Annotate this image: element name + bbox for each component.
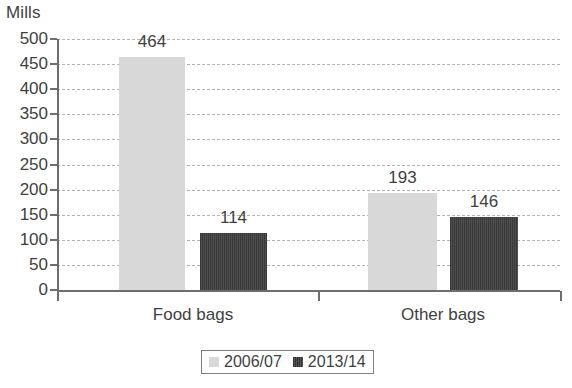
bar-chart: Mills 0501001502002503003504004505004641… — [0, 0, 572, 388]
bar-food-bags-2013-14[interactable] — [200, 233, 267, 290]
x-axis-line — [57, 290, 560, 292]
y-axis-tick — [50, 113, 57, 115]
y-axis-tick-label: 350 — [2, 105, 48, 122]
y-axis-tick — [50, 38, 57, 40]
y-axis-tick-label: 50 — [2, 256, 48, 273]
y-axis-tick-label: 500 — [2, 30, 48, 47]
y-axis-tick-label: 0 — [2, 281, 48, 298]
y-axis-tick — [50, 164, 57, 166]
x-axis-separator-tick — [560, 291, 562, 301]
y-axis-tick — [50, 264, 57, 266]
x-axis-separator-tick — [318, 291, 320, 301]
y-axis-tick-label: 300 — [2, 130, 48, 147]
legend-item-2006-07[interactable]: 2006/07 — [209, 354, 282, 370]
legend-item-label: 2006/07 — [224, 354, 282, 370]
y-axis-tick — [50, 214, 57, 216]
y-axis-tick-label: 100 — [2, 231, 48, 248]
y-axis-tick-label: 150 — [2, 206, 48, 223]
y-axis-line — [57, 39, 59, 300]
y-axis-tick-label: 250 — [2, 156, 48, 173]
y-axis-tick — [50, 289, 57, 291]
legend-item-2013-14[interactable]: 2013/14 — [293, 354, 366, 370]
y-axis-tick — [50, 239, 57, 241]
bar-food-bags-2006-07[interactable] — [119, 57, 185, 290]
bar-other-bags-2006-07[interactable] — [368, 193, 437, 290]
y-axis-tick-label: 450 — [2, 55, 48, 72]
legend-swatch-icon — [209, 357, 219, 367]
y-axis-unit-label: Mills — [6, 3, 41, 23]
y-axis-tick-label: 200 — [2, 181, 48, 198]
bar-other-bags-2013-14[interactable] — [450, 217, 518, 290]
bar-value-label: 114 — [200, 209, 267, 226]
y-axis-tick-label: 400 — [2, 80, 48, 97]
bar-value-label: 146 — [450, 193, 518, 210]
y-axis-tick — [50, 138, 57, 140]
chart-legend: 2006/07 2013/14 — [201, 350, 374, 374]
legend-item-label: 2013/14 — [308, 354, 366, 370]
legend-swatch-icon — [293, 357, 303, 367]
y-axis-tick — [50, 189, 57, 191]
x-axis-category-label: Other bags — [353, 305, 533, 325]
x-axis-origin-tick — [57, 291, 59, 301]
bar-value-label: 464 — [119, 33, 185, 50]
y-axis-tick — [50, 88, 57, 90]
x-axis-category-label: Food bags — [103, 305, 283, 325]
y-axis-tick — [50, 63, 57, 65]
bar-value-label: 193 — [368, 169, 437, 186]
